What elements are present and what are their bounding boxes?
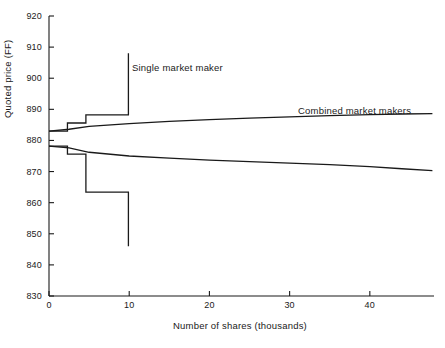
annotation-single-market-maker: Single market maker [132, 62, 223, 73]
y-axis-tick-label: 870 [8, 167, 42, 177]
y-axis-tick-label: 840 [8, 260, 42, 270]
series-line-2 [49, 114, 432, 131]
y-axis-tick-label: 890 [8, 104, 42, 114]
y-axis-tick-label: 860 [8, 198, 42, 208]
chart-series-group [49, 53, 432, 246]
annotation-combined-market-makers: Combined market makers [298, 105, 411, 116]
x-axis-tick-label: 10 [124, 300, 134, 310]
y-axis-tick-label: 830 [8, 291, 42, 301]
chart-figure: 830840850860870880890900910920010203040 … [0, 0, 445, 348]
chart-plot-area [0, 0, 445, 348]
x-axis-ticks [49, 291, 370, 296]
chart-axes [49, 16, 434, 296]
x-axis-tick-label: 20 [204, 300, 214, 310]
x-axis-tick-label: 40 [365, 300, 375, 310]
y-axis-tick-label: 880 [8, 135, 42, 145]
y-axis-tick-label: 850 [8, 229, 42, 239]
series-line-1 [49, 146, 128, 246]
series-line-3 [49, 146, 432, 171]
y-axis-ticks [49, 16, 54, 296]
series-line-0 [49, 53, 128, 131]
y-axis-title: Quoted price (FF) [2, 0, 13, 118]
x-axis-tick-label: 30 [284, 300, 294, 310]
y-axis-tick-label: 910 [8, 42, 42, 52]
x-axis-tick-label: 0 [46, 300, 51, 310]
y-axis-tick-label: 920 [8, 11, 42, 21]
y-axis-tick-label: 900 [8, 73, 42, 83]
x-axis-title: Number of shares (thousands) [49, 320, 431, 331]
